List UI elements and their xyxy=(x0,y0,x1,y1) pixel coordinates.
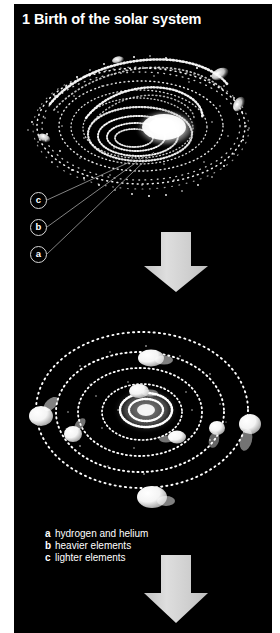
orbiting-protoplanets-graphic xyxy=(14,300,272,520)
dust-clump-upper-right xyxy=(209,65,230,83)
legend: a hydrogen and helium b heavier elements… xyxy=(45,528,148,563)
page-title: 1 Birth of the solar system xyxy=(22,12,201,27)
protoplanet-left-inner xyxy=(64,416,88,442)
legend-text-a: hydrogen and helium xyxy=(55,528,148,539)
figure-page: 1 Birth of the solar system xyxy=(0,0,280,633)
protoplanet-right-inner xyxy=(207,421,225,449)
protoplanet-upper-mid xyxy=(129,384,158,398)
legend-item-a: a hydrogen and helium xyxy=(45,528,148,540)
legend-item-c: c lighter elements xyxy=(45,552,148,564)
dust-clump-left xyxy=(36,132,51,144)
protoplanet-right-outer xyxy=(238,414,261,452)
illustration-panel: 1 Birth of the solar system xyxy=(14,4,272,633)
protoplanet-top xyxy=(138,350,173,367)
callout-badge-c[interactable]: c xyxy=(30,192,47,209)
protoplanet-inner-lower xyxy=(159,431,186,444)
flow-arrow-down-2 xyxy=(133,553,219,625)
dust-clump-right xyxy=(231,95,248,114)
legend-key-a: a xyxy=(45,528,55,539)
protosun-core xyxy=(134,108,198,148)
spiral-arm-upper xyxy=(50,59,228,110)
callout-badge-a[interactable]: a xyxy=(30,246,47,263)
flow-arrow-down-1 xyxy=(133,230,219,294)
protoplanet-bottom xyxy=(137,486,175,508)
legend-item-b: b heavier elements xyxy=(45,540,148,552)
protoplanet-left-outer xyxy=(29,394,61,426)
protoplanetary-disk-graphic xyxy=(14,30,272,210)
legend-key-b: b xyxy=(45,540,55,551)
panel-orbiting-protoplanets xyxy=(14,300,272,520)
legend-text-c: lighter elements xyxy=(55,552,126,563)
panel-protoplanetary-disk xyxy=(14,30,272,210)
callout-badge-b[interactable]: b xyxy=(30,219,47,236)
legend-text-b: heavier elements xyxy=(55,540,131,551)
legend-key-c: c xyxy=(45,552,55,563)
